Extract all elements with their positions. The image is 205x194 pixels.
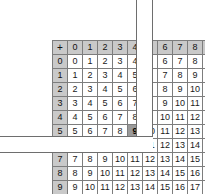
cell-0-3: 3 <box>113 55 127 68</box>
cell-7-0: 7 <box>68 153 82 166</box>
table-row: 9 9 10 11 12 13 14 15 16 17 18 <box>53 181 205 194</box>
table-row: 4 4 5 6 7 8 9 10 11 12 13 <box>53 111 205 124</box>
cell-2-2: 4 <box>98 83 112 96</box>
cell-1-0: 1 <box>68 69 82 82</box>
table-header-row: + 0 1 2 3 4 5 6 7 8 9 <box>53 41 205 54</box>
cell-8-3: 11 <box>113 167 127 180</box>
cell-1-7: 8 <box>173 69 187 82</box>
row-header-0: 0 <box>53 55 67 68</box>
row-header-3: 3 <box>53 97 67 110</box>
cell-1-6: 7 <box>158 69 172 82</box>
column-header-6: 6 <box>158 41 172 54</box>
cell-3-7: 10 <box>173 97 187 110</box>
cell-5-6: 11 <box>158 125 172 138</box>
cell-3-3: 6 <box>113 97 127 110</box>
cell-6-9: 15 <box>203 139 205 152</box>
cell-3-9: 12 <box>203 97 205 110</box>
cell-0-2: 2 <box>98 55 112 68</box>
cell-9-2: 11 <box>98 181 112 194</box>
row-header-4: 4 <box>53 111 67 124</box>
cell-6-7: 13 <box>173 139 187 152</box>
column-header-1: 1 <box>83 41 97 54</box>
cell-2-8: 10 <box>188 83 202 96</box>
cell-8-2: 10 <box>98 167 112 180</box>
table-row: 0 0 1 2 3 4 5 6 7 8 9 <box>53 55 205 68</box>
cell-8-1: 9 <box>83 167 97 180</box>
cell-1-3: 4 <box>113 69 127 82</box>
cell-4-8: 12 <box>188 111 202 124</box>
cell-0-1: 1 <box>83 55 97 68</box>
table-row: 2 2 3 4 5 6 7 8 9 10 11 <box>53 83 205 96</box>
cell-4-7: 11 <box>173 111 187 124</box>
cell-5-8: 13 <box>188 125 202 138</box>
cell-9-7: 16 <box>173 181 187 194</box>
cell-9-1: 10 <box>83 181 97 194</box>
cell-1-9: 10 <box>203 69 205 82</box>
cell-8-5: 13 <box>143 167 157 180</box>
row-header-9: 9 <box>53 181 67 194</box>
cell-5-7: 12 <box>173 125 187 138</box>
cell-8-9: 17 <box>203 167 205 180</box>
row-header-2: 2 <box>53 83 67 96</box>
cell-8-6: 14 <box>158 167 172 180</box>
addition-table-grid: + 0 1 2 3 4 5 6 7 8 9 0 0 1 2 <box>52 40 205 194</box>
cell-2-3: 5 <box>113 83 127 96</box>
cell-3-0: 3 <box>68 97 82 110</box>
table-row: 8 8 9 10 11 12 13 14 15 16 17 <box>53 167 205 180</box>
cell-4-3: 7 <box>113 111 127 124</box>
cell-4-1: 5 <box>83 111 97 124</box>
addition-table: + 0 1 2 3 4 5 6 7 8 9 0 0 1 2 <box>52 40 205 194</box>
cell-9-0: 9 <box>68 181 82 194</box>
cell-7-6: 13 <box>158 153 172 166</box>
cell-3-1: 4 <box>83 97 97 110</box>
cell-5-9: 14 <box>203 125 205 138</box>
horizontal-occluder-strip <box>0 136 153 153</box>
cell-7-9: 16 <box>203 153 205 166</box>
cell-7-8: 15 <box>188 153 202 166</box>
column-header-8: 8 <box>188 41 202 54</box>
column-header-9: 9 <box>203 41 205 54</box>
column-header-3: 3 <box>113 41 127 54</box>
cell-0-0: 0 <box>68 55 82 68</box>
cell-9-9: 18 <box>203 181 205 194</box>
cell-2-0: 2 <box>68 83 82 96</box>
column-header-0: 0 <box>68 41 82 54</box>
cell-3-6: 9 <box>158 97 172 110</box>
cell-8-4: 12 <box>128 167 142 180</box>
cell-7-7: 14 <box>173 153 187 166</box>
cell-7-4: 11 <box>128 153 142 166</box>
operator-corner-cell: + <box>53 41 67 54</box>
cell-7-3: 10 <box>113 153 127 166</box>
cell-2-7: 9 <box>173 83 187 96</box>
cell-8-7: 15 <box>173 167 187 180</box>
cell-3-2: 5 <box>98 97 112 110</box>
cell-4-9: 13 <box>203 111 205 124</box>
cell-9-8: 17 <box>188 181 202 194</box>
cell-6-8: 14 <box>188 139 202 152</box>
row-header-1: 1 <box>53 69 67 82</box>
cell-7-1: 8 <box>83 153 97 166</box>
cell-8-0: 8 <box>68 167 82 180</box>
vertical-occluder-strip <box>136 0 153 152</box>
table-row: 3 3 4 5 6 7 8 9 10 11 12 <box>53 97 205 110</box>
cell-8-8: 16 <box>188 167 202 180</box>
row-header-7: 7 <box>53 153 67 166</box>
row-header-8: 8 <box>53 167 67 180</box>
cell-9-5: 14 <box>143 181 157 194</box>
cell-0-7: 7 <box>173 55 187 68</box>
cell-2-6: 8 <box>158 83 172 96</box>
cell-0-6: 6 <box>158 55 172 68</box>
cell-7-2: 9 <box>98 153 112 166</box>
cell-0-8: 8 <box>188 55 202 68</box>
cell-1-2: 3 <box>98 69 112 82</box>
cell-0-9: 9 <box>203 55 205 68</box>
column-header-2: 2 <box>98 41 112 54</box>
cell-9-4: 13 <box>128 181 142 194</box>
cell-9-3: 12 <box>113 181 127 194</box>
cell-9-6: 15 <box>158 181 172 194</box>
cell-1-1: 2 <box>83 69 97 82</box>
cell-4-2: 6 <box>98 111 112 124</box>
cell-4-6: 10 <box>158 111 172 124</box>
table-row: 1 1 2 3 4 5 6 7 8 9 10 <box>53 69 205 82</box>
cell-7-5: 12 <box>143 153 157 166</box>
